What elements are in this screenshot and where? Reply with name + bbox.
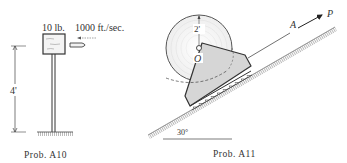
- pivot-o: [197, 46, 202, 51]
- center-label: O: [194, 53, 201, 64]
- velocity-label: 1000 ft./sec.: [75, 22, 124, 33]
- force-arrow-p: [298, 15, 322, 28]
- force-p-label: P: [326, 8, 333, 19]
- radius-label: 2': [194, 24, 201, 34]
- height-label: 4': [10, 85, 17, 96]
- diagram-canvas: 4' 10 lb. 1000 ft./sec. Prob. A10 30° 2: [0, 0, 347, 163]
- prob-a10-caption: Prob. A10: [24, 150, 67, 160]
- prob-a11-caption: Prob. A11: [213, 149, 256, 159]
- prob-a11-figure: 30° 2': [148, 8, 337, 159]
- point-a-label: A: [289, 19, 297, 30]
- prob-a10-figure: 4' 10 lb. 1000 ft./sec. Prob. A10: [10, 22, 124, 160]
- bullet: [70, 43, 85, 47]
- block: [43, 34, 65, 54]
- angle-label: 30°: [177, 128, 188, 137]
- ground: [37, 132, 73, 136]
- cable: [248, 33, 290, 58]
- weight-label: 10 lb.: [42, 22, 65, 33]
